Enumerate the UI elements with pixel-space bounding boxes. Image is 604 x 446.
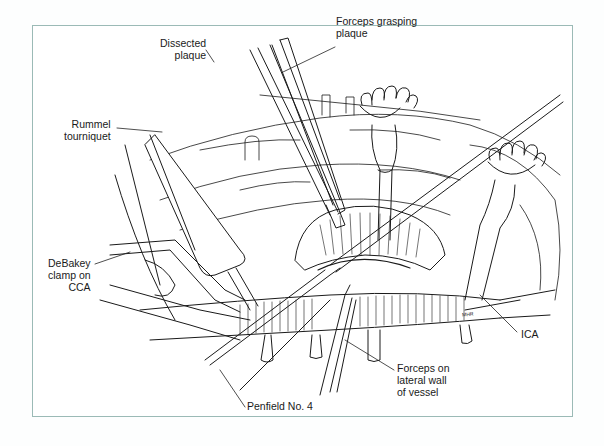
label-forceps-lateral-wall: Forceps on lateral wall of vessel: [397, 362, 450, 398]
label-ica: ICA: [521, 328, 539, 340]
label-line: lateral wall: [397, 374, 450, 386]
label-line: plaque: [336, 27, 417, 39]
label-forceps-grasping-plaque: Forceps grasping plaque: [336, 15, 417, 39]
label-penfield: Penfield No. 4: [247, 400, 313, 412]
forceps-grasping-plaque: [272, 38, 345, 214]
surgical-illustration: [0, 0, 604, 446]
label-line: Dissected: [160, 37, 206, 49]
ica-vessel: [465, 290, 555, 318]
leader-dissected-plaque: [206, 50, 214, 62]
label-line: clamp on: [48, 269, 91, 281]
leader-forceps-grasping: [283, 47, 335, 72]
retractor-blade: [145, 135, 258, 310]
dissector-instrument: [250, 45, 345, 228]
label-rummel-tourniquet: Rummel tourniquet: [64, 118, 111, 142]
label-line: plaque: [160, 49, 206, 61]
crossing-instrument: [330, 95, 563, 272]
leader-ica: [480, 295, 517, 332]
label-line: of vessel: [397, 386, 450, 398]
forceps-lateral-wall: [320, 285, 356, 395]
label-line: CCA: [48, 281, 91, 293]
label-line: Forceps on: [397, 362, 450, 374]
label-line: ICA: [521, 328, 539, 340]
leader-forceps-lateral: [345, 340, 394, 370]
leader-lines: [95, 47, 517, 407]
plaque-arteriotomy: [295, 206, 445, 270]
label-line: Penfield No. 4: [247, 400, 313, 412]
artist-signature: MHR: [461, 307, 474, 320]
label-line: DeBakey: [48, 257, 91, 269]
label-line: tourniquet: [64, 130, 111, 142]
self-retaining-retractor-right: [465, 141, 546, 300]
label-line: Forceps grasping: [336, 15, 417, 27]
penfield-dissector: [205, 268, 340, 390]
label-dissected-plaque: Dissected plaque: [160, 37, 206, 61]
leader-debakey: [95, 252, 130, 264]
label-line: Rummel: [64, 118, 111, 130]
label-debakey-clamp: DeBakey clamp on CCA: [48, 257, 91, 293]
carotid-vessel: [140, 293, 500, 362]
leader-rummel: [117, 128, 162, 132]
